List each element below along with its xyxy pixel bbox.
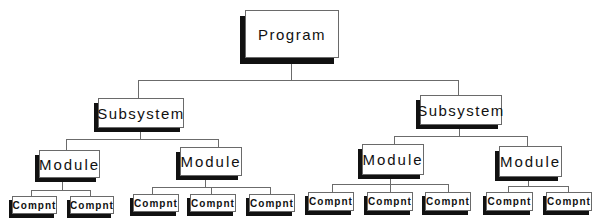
node-subsystem-1: Subsystem bbox=[98, 98, 184, 128]
node-compnt: Compnt bbox=[249, 194, 295, 212]
node-label: Compnt bbox=[191, 198, 235, 209]
node-label: Compnt bbox=[13, 200, 57, 211]
connector bbox=[138, 80, 459, 81]
connector bbox=[394, 136, 528, 137]
node-module-2: Module bbox=[180, 147, 242, 176]
connector bbox=[62, 182, 63, 190]
connector bbox=[332, 184, 333, 192]
node-label: Subsystem bbox=[97, 105, 185, 122]
node-label: Module bbox=[500, 153, 561, 170]
node-label: Compnt bbox=[134, 198, 178, 209]
node-label: Compnt bbox=[250, 198, 294, 209]
node-module-1: Module bbox=[39, 150, 100, 178]
node-module-3: Module bbox=[362, 144, 424, 175]
connector bbox=[138, 80, 139, 98]
node-compnt: Compnt bbox=[367, 192, 413, 211]
node-compnt: Compnt bbox=[425, 192, 471, 211]
connector bbox=[66, 139, 218, 140]
node-label: Compnt bbox=[70, 200, 114, 211]
node-program: Program bbox=[245, 10, 339, 58]
connector bbox=[270, 187, 271, 194]
connector bbox=[31, 190, 91, 191]
node-label: Program bbox=[258, 26, 326, 43]
node-label: Compnt bbox=[368, 196, 412, 207]
node-module-4: Module bbox=[499, 146, 562, 177]
node-label: Compnt bbox=[426, 196, 470, 207]
connector bbox=[152, 187, 153, 194]
connector bbox=[218, 139, 219, 147]
node-compnt: Compnt bbox=[70, 196, 114, 214]
node-compnt: Compnt bbox=[190, 194, 236, 212]
connector bbox=[211, 187, 212, 194]
connector bbox=[291, 63, 292, 80]
node-label: Compnt bbox=[547, 196, 591, 207]
node-label: Compnt bbox=[488, 196, 532, 207]
connector bbox=[66, 139, 67, 150]
connector bbox=[459, 129, 460, 136]
node-label: Module bbox=[362, 151, 423, 168]
node-subsystem-2: Subsystem bbox=[420, 95, 502, 125]
node-label: Subsystem bbox=[417, 102, 505, 119]
connector bbox=[448, 184, 449, 192]
node-label: Compnt bbox=[309, 196, 353, 207]
connector bbox=[390, 184, 391, 192]
connector bbox=[458, 80, 459, 95]
connector bbox=[527, 136, 528, 146]
connector bbox=[508, 186, 569, 187]
node-compnt: Compnt bbox=[12, 196, 57, 214]
node-compnt: Compnt bbox=[308, 192, 354, 211]
hierarchy-diagram: Program Subsystem Subsystem Module Modul… bbox=[0, 0, 597, 221]
connector bbox=[140, 131, 141, 139]
node-label: Module bbox=[39, 156, 100, 173]
node-compnt: Compnt bbox=[546, 192, 592, 211]
connector bbox=[394, 136, 395, 144]
node-label: Module bbox=[180, 153, 241, 170]
node-compnt: Compnt bbox=[486, 192, 533, 211]
connector bbox=[205, 180, 206, 187]
node-compnt: Compnt bbox=[133, 194, 179, 212]
